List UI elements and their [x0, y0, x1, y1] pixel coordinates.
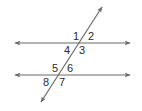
angle-label-1: 1	[73, 30, 79, 42]
angle-diagram: 12345678	[0, 0, 142, 111]
transversal	[41, 7, 102, 102]
angle-label-2: 2	[88, 30, 94, 42]
angle-label-8: 8	[43, 76, 49, 88]
angle-label-7: 7	[59, 76, 65, 88]
angle-label-5: 5	[52, 62, 58, 74]
lines-group	[15, 7, 130, 102]
angle-label-6: 6	[67, 62, 73, 74]
angle-label-3: 3	[79, 44, 85, 56]
angle-label-4: 4	[64, 44, 70, 56]
